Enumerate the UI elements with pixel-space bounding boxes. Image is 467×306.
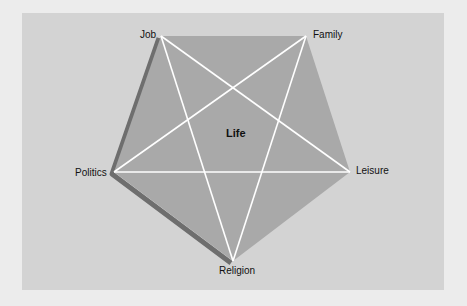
vertex-label-family: Family xyxy=(313,29,342,40)
vertex-label-leisure: Leisure xyxy=(356,165,389,176)
vertex-label-job: Job xyxy=(140,29,156,40)
vertex-label-religion: Religion xyxy=(219,265,255,276)
pentagon-shape xyxy=(114,36,350,261)
vertex-label-politics: Politics xyxy=(75,167,107,178)
pentagon-star-diagram xyxy=(0,0,467,306)
center-label-life: Life xyxy=(226,127,246,139)
